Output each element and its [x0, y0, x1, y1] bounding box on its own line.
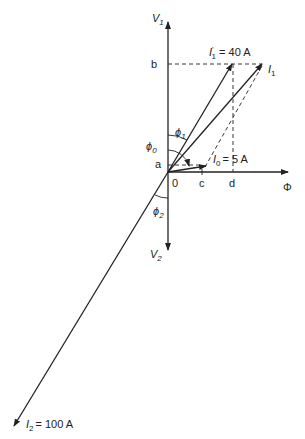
phi2-arc [155, 195, 168, 198]
phi-label: Φ [283, 181, 292, 193]
i2-label: I2= 100 A [26, 418, 74, 433]
point-b-label: b [151, 58, 157, 70]
phasor-diagram: V1 V2 Φ b a 0 c d I'1= 40 A I1 I0= 5 A I… [0, 0, 305, 439]
v2-label: V2 [150, 248, 162, 263]
i2-phasor [14, 172, 168, 426]
point-a-label: a [155, 158, 162, 170]
point-c-label: c [199, 177, 205, 189]
i0-phasor [168, 166, 206, 172]
phi2-label: ϕ2 [153, 205, 164, 220]
v1-label: V1 [152, 12, 164, 27]
i1prime-label: I'1= 40 A [209, 45, 251, 61]
i0-to-i1-dashed-line [205, 66, 262, 167]
point-d-label: d [229, 177, 235, 189]
origin-label: 0 [172, 177, 178, 189]
i0-label: I0= 5 A [213, 153, 249, 168]
phi0-label: ϕ0 [146, 140, 157, 155]
phi1-label: ϕ1 [175, 126, 186, 141]
i1-label: I1 [268, 63, 276, 78]
